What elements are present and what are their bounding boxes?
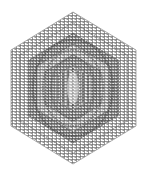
mesh-group	[11, 12, 136, 164]
hexagonal-mesh-figure	[0, 0, 146, 175]
center-highlight	[67, 72, 79, 104]
